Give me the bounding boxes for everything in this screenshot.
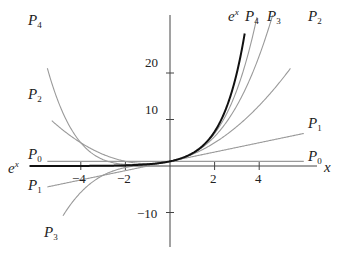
label-right-p0: P0 bbox=[308, 149, 322, 166]
label-left-ex: ex bbox=[8, 160, 19, 176]
y-tick-label-20: 20 bbox=[145, 56, 158, 69]
curve-p3 bbox=[63, 15, 273, 215]
label-left-p0: P0 bbox=[28, 147, 42, 164]
label-right-p1: P1 bbox=[308, 116, 322, 133]
label-left-p2: P2 bbox=[28, 87, 42, 104]
label-right-p4: P4 bbox=[245, 9, 259, 26]
label-right-p3: P3 bbox=[267, 9, 281, 26]
x-tick-label-neg2: −2 bbox=[117, 172, 131, 185]
curves bbox=[30, 15, 304, 215]
x-tick-label-4: 4 bbox=[255, 172, 262, 185]
label-right-p2: P2 bbox=[308, 9, 322, 26]
label-left-p3: P3 bbox=[44, 225, 58, 242]
curve-ex bbox=[30, 33, 245, 166]
y-tick-label-neg10: −10 bbox=[137, 207, 157, 220]
x-tick-label-neg4: −4 bbox=[72, 172, 86, 185]
curve-p4 bbox=[47, 17, 257, 165]
label-right-ex: ex bbox=[228, 8, 239, 24]
label-left-p4: P4 bbox=[28, 13, 42, 30]
y-tick-label-10: 10 bbox=[145, 103, 158, 116]
taylor-polynomial-chart bbox=[0, 0, 343, 255]
axes bbox=[30, 15, 317, 247]
label-left-p1: P1 bbox=[28, 178, 42, 195]
x-tick-label-2: 2 bbox=[210, 172, 217, 185]
label-x-axis: x bbox=[324, 160, 331, 175]
